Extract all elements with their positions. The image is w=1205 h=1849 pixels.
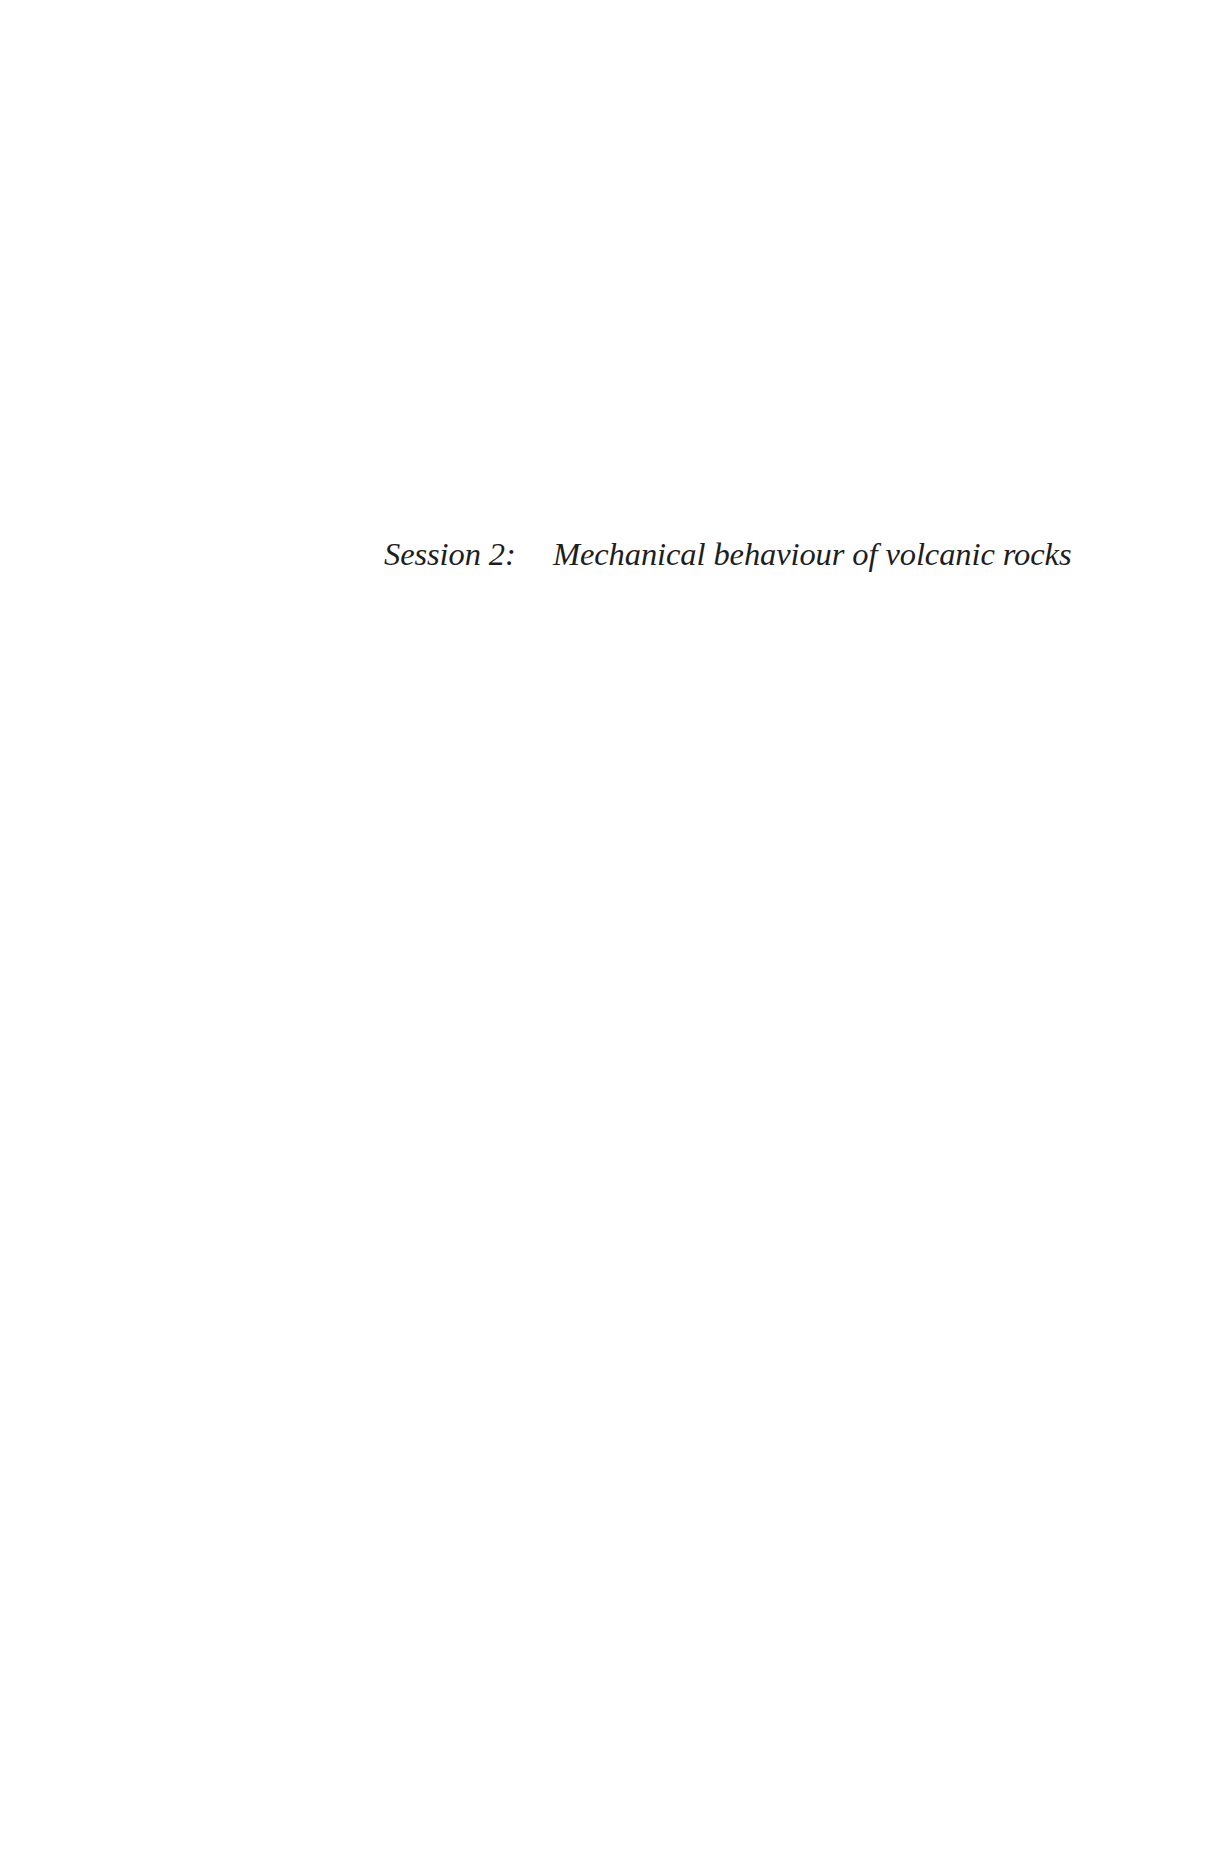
session-number: Session 2:: [384, 534, 553, 574]
session-title: Mechanical behaviour of volcanic rocks: [553, 536, 1071, 572]
session-heading: Session 2:Mechanical behaviour of volcan…: [384, 534, 1071, 574]
